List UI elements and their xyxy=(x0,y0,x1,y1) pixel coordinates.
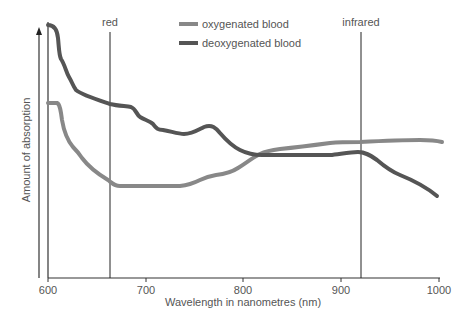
legend-label: oxygenated blood xyxy=(202,18,289,30)
red-marker-label: red xyxy=(102,16,118,28)
legend: oxygenated blood deoxygenated blood xyxy=(179,18,301,49)
infrared-marker-label: infrared xyxy=(342,16,379,28)
legend-item-oxygenated: oxygenated blood xyxy=(179,18,289,30)
infrared-marker: infrared xyxy=(342,16,379,278)
x-tick-label: 800 xyxy=(234,284,252,296)
y-axis-arrow xyxy=(36,27,42,278)
series-oxygenated-blood xyxy=(48,103,442,186)
legend-label: deoxygenated blood xyxy=(202,37,301,49)
x-tick-labels: 600 700 800 900 1000 xyxy=(39,284,451,296)
arrow-up-icon xyxy=(36,27,42,35)
x-tick-label: 900 xyxy=(332,284,350,296)
x-tick-label: 600 xyxy=(39,284,57,296)
legend-item-deoxygenated: deoxygenated blood xyxy=(179,37,301,49)
series-deoxygenated-blood xyxy=(48,25,437,196)
x-tick-label: 1000 xyxy=(427,284,451,296)
y-axis-title: Amount of absorption xyxy=(20,98,32,203)
x-axis-title: Wavelength in nanometres (nm) xyxy=(165,296,321,308)
x-tick-label: 700 xyxy=(137,284,155,296)
red-marker: red xyxy=(102,16,118,278)
absorption-chart: 600 700 800 900 1000 Wavelength in nanom… xyxy=(0,0,474,324)
